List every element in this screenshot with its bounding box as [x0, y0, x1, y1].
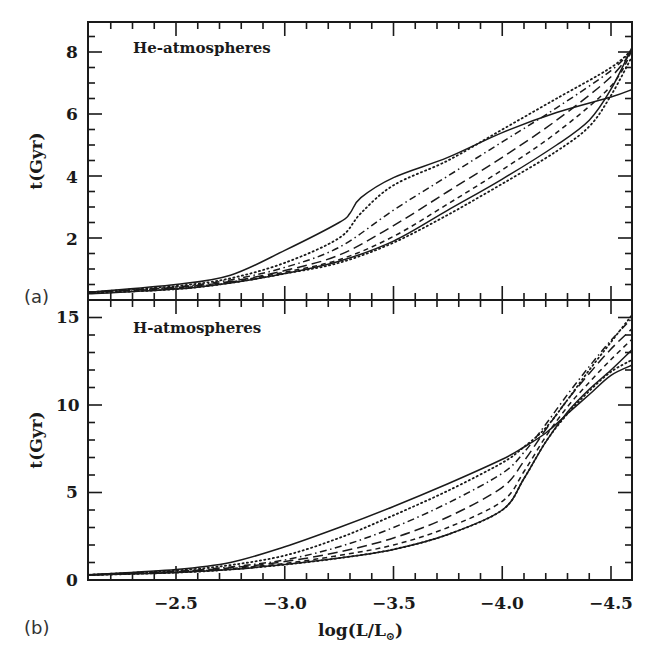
ylabel-a: t(Gyr) [26, 132, 46, 189]
ytick-a-6: 6 [66, 104, 78, 124]
ytick-b-5: 5 [66, 482, 78, 502]
xtick-2-5: −2.5 [154, 593, 198, 613]
curve-long-dash [89, 328, 633, 575]
xtick-4-0: −4.0 [480, 593, 524, 613]
xtick-3-5: −3.5 [372, 593, 416, 613]
panel-a-curves [89, 46, 633, 294]
ylabel-b: t(Gyr) [26, 411, 46, 468]
xlabel-main: log(L/L [318, 620, 386, 640]
panel-a-title: He-atmospheres [133, 39, 271, 57]
panel-b-title: H-atmospheres [133, 319, 261, 337]
panel-b-frame [88, 300, 632, 580]
ytick-a-4: 4 [66, 167, 78, 187]
curve-dotted-upper [89, 314, 633, 575]
xlabel-sun-symbol: ⊙ [386, 630, 395, 643]
curve-solid-lower [89, 349, 633, 575]
panel-a-frame [88, 22, 632, 300]
xtick-3-0: −3.0 [263, 593, 307, 613]
ytick-b-15: 15 [56, 307, 80, 327]
xlabel-close: ) [395, 620, 403, 640]
curve-long-dash [89, 49, 633, 292]
curve-dash-dot [89, 318, 633, 575]
xtick-4-5: −4.5 [589, 593, 633, 613]
curve-dash-dot [89, 49, 633, 292]
curve-dotted-lower [89, 360, 633, 576]
panel-a-letter: (a) [24, 286, 49, 307]
ytick-b-0: 0 [66, 570, 78, 590]
curve-short-dash [89, 49, 633, 292]
ytick-a-8: 8 [66, 42, 78, 62]
curve-solid-upper [89, 365, 633, 575]
chart-figure: He-atmospheres H-atmospheres 2 4 6 8 0 5… [0, 0, 654, 660]
panel-b-curves [89, 314, 633, 575]
ytick-b-10: 10 [56, 395, 80, 415]
ytick-a-2: 2 [66, 229, 78, 249]
curve-solid-lower [89, 46, 633, 294]
curve-solid-upper [89, 89, 633, 292]
curve-dotted-lower [89, 55, 633, 293]
xlabel: log(L/L⊙) [318, 620, 403, 643]
curve-dotted-upper [89, 49, 633, 292]
panel-b-letter: (b) [24, 617, 49, 638]
